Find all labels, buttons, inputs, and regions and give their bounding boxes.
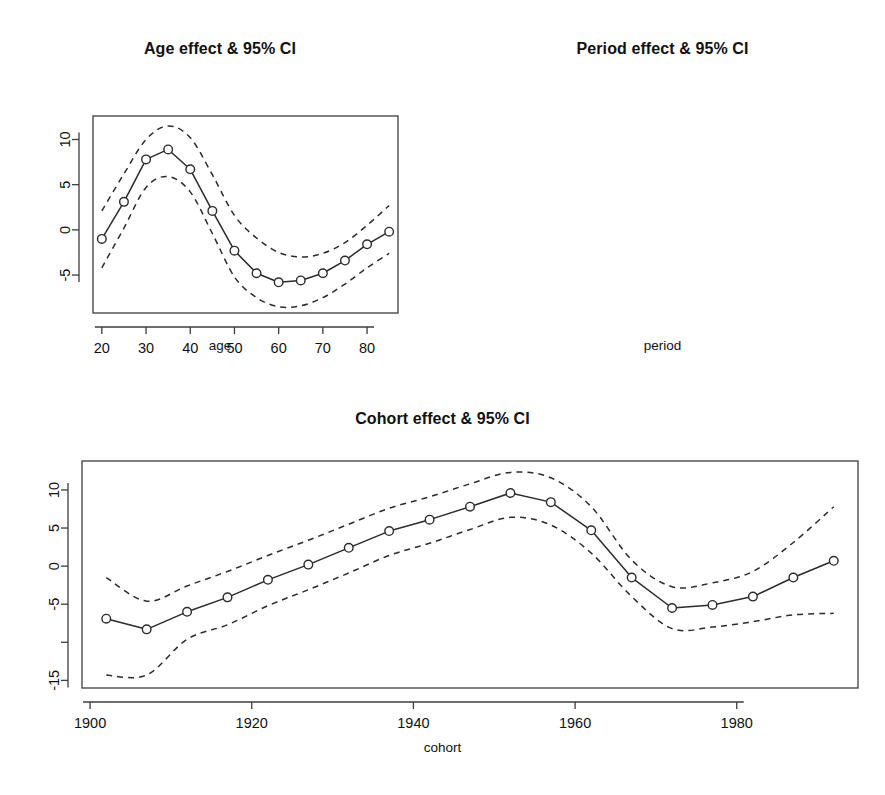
y-tick-label: 10 <box>57 131 73 147</box>
data-point-marker <box>102 614 111 623</box>
plot-frame <box>93 116 398 313</box>
data-point-marker <box>296 276 305 285</box>
estimate-line <box>106 493 834 629</box>
data-point-marker <box>183 608 192 617</box>
data-point-marker <box>466 502 475 511</box>
period-panel-title: Period effect & 95% CI <box>440 40 885 58</box>
data-point-marker <box>749 592 758 601</box>
age-effect-panel: Age effect & 95% CI 20304050607080-50510… <box>0 20 440 380</box>
data-point-marker <box>252 269 261 278</box>
data-point-marker <box>142 625 151 634</box>
cohort-effect-panel: Cohort effect & 95% CI 19001920194019601… <box>0 395 885 795</box>
data-point-marker <box>789 573 798 582</box>
data-point-marker <box>186 165 195 174</box>
x-tick-label: 1980 <box>721 715 753 731</box>
data-point-marker <box>363 240 372 249</box>
period-effect-chart: 19901995200020052010-50510 <box>440 65 885 365</box>
y-tick-label: 5 <box>57 181 73 189</box>
age-panel-title: Age effect & 95% CI <box>0 40 440 58</box>
y-tick-label: -5 <box>57 269 73 282</box>
y-tick-label: 0 <box>57 226 73 234</box>
data-point-marker <box>587 526 596 535</box>
y-tick-label: -5 <box>46 598 62 611</box>
data-point-marker <box>344 544 353 553</box>
cohort-panel-title: Cohort effect & 95% CI <box>0 410 885 428</box>
data-point-marker <box>98 235 107 244</box>
ci-band-line <box>106 517 834 677</box>
data-point-marker <box>547 498 556 507</box>
data-point-marker <box>341 256 350 265</box>
data-point-marker <box>164 145 173 154</box>
data-point-marker <box>142 155 151 164</box>
data-point-marker <box>425 515 434 524</box>
period-effect-panel: Period effect & 95% CI 19901995200020052… <box>440 20 885 380</box>
data-point-marker <box>708 601 717 610</box>
cohort-axis-title: cohort <box>0 740 885 755</box>
x-tick-label: 1960 <box>559 715 591 731</box>
data-point-marker <box>223 593 232 602</box>
ci-band-line <box>106 472 834 601</box>
age-axis-title: age <box>0 338 440 353</box>
data-point-marker <box>385 527 394 536</box>
x-tick-label: 1920 <box>236 715 268 731</box>
data-point-marker <box>230 246 239 255</box>
data-point-marker <box>120 198 129 207</box>
data-point-marker <box>264 576 273 585</box>
ci-band-line <box>102 126 389 257</box>
data-point-marker <box>304 560 313 569</box>
y-tick-label: 5 <box>46 524 62 532</box>
data-point-marker <box>668 604 677 613</box>
plot-frame <box>82 461 858 688</box>
data-point-marker <box>627 573 636 582</box>
x-tick-label: 1940 <box>397 715 429 731</box>
age-effect-chart: 20304050607080-50510 <box>0 65 440 365</box>
data-point-marker <box>319 269 328 278</box>
data-point-marker <box>506 489 515 498</box>
data-point-marker <box>829 556 838 565</box>
period-axis-title: period <box>440 338 885 353</box>
data-point-marker <box>274 278 283 287</box>
x-tick-label: 1900 <box>74 715 106 731</box>
y-tick-label: -15 <box>46 670 62 691</box>
y-tick-label: 10 <box>46 482 62 498</box>
data-point-marker <box>385 227 394 236</box>
cohort-effect-chart: 19001920194019601980-15-50510 <box>0 440 885 740</box>
data-point-marker <box>208 207 217 216</box>
y-tick-label: 0 <box>46 562 62 570</box>
